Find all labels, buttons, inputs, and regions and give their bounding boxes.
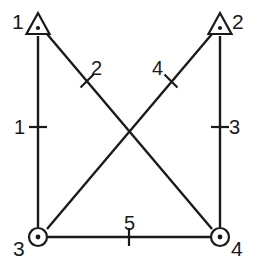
node-label-1: 1 [12, 11, 24, 32]
node-2-symbol[interactable] [209, 13, 232, 34]
node-center-dot-icon [36, 235, 41, 240]
edge-label-1: 1 [14, 117, 25, 137]
triangle-icon [27, 13, 50, 34]
node-label-2: 2 [232, 11, 244, 32]
edge-label-4: 4 [152, 58, 163, 78]
edge-label-3: 3 [229, 117, 240, 137]
edge-lines [38, 34, 220, 237]
node-label-3: 3 [13, 238, 25, 259]
node-1-symbol[interactable] [27, 13, 50, 34]
node-center-dot-icon [218, 26, 222, 30]
node-center-dot-icon [36, 26, 40, 30]
edge-label-2: 2 [91, 58, 102, 78]
node-center-dot-icon [218, 235, 223, 240]
triangle-icon [209, 13, 232, 34]
node-4-symbol[interactable] [211, 228, 229, 246]
edge-label-5: 5 [124, 213, 135, 233]
node-label-4: 4 [231, 238, 243, 259]
node-3-symbol[interactable] [29, 228, 47, 246]
graph-diagram: 1 2 3 4 1 2 3 4 5 [0, 0, 258, 271]
